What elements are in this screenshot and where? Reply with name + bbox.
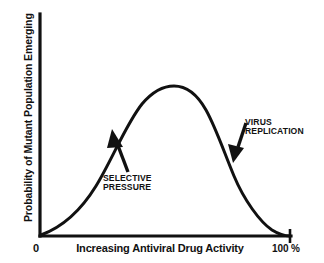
chart-figure: Probability of Mutant Population Emergin… [0, 0, 324, 263]
y-axis-label: Probability of Mutant Population Emergin… [23, 13, 34, 223]
annotation-virus-replication-line2: REPLICATION [245, 127, 304, 136]
x-axis-label: Increasing Antiviral Drug Activity [58, 243, 262, 255]
virus-replication-arrow-head [228, 144, 244, 163]
probability-curve [41, 86, 290, 236]
x-axis-min-tick-label: 0 [33, 243, 39, 255]
selective-pressure-arrow-shaft [117, 143, 128, 172]
annotation-virus-replication: VIRUSREPLICATION [245, 118, 304, 137]
annotation-selective-pressure-line2: PRESSURE [103, 183, 152, 192]
x-axis-max-tick-label: 100 % [272, 244, 300, 255]
annotation-selective-pressure: SELECTIVEPRESSURE [103, 174, 152, 193]
